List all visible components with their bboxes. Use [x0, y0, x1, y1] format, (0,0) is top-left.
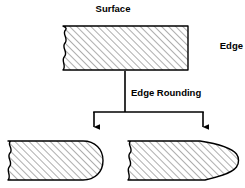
diagram-canvas: Surface Edge Edge Rounding [0, 0, 245, 188]
surface-label: Surface [96, 3, 131, 14]
edge-label: Edge [220, 40, 243, 51]
tapered-edge-block [128, 141, 239, 180]
radiused-edge-block [8, 141, 103, 180]
branching-arrow [93, 71, 204, 127]
tapered-edge-block-outline [128, 141, 239, 180]
edge-rounding-diagram: Surface Edge Edge Rounding [0, 0, 245, 188]
radiused-edge-block-outline [8, 141, 103, 180]
edge-rounding-label: Edge Rounding [131, 87, 201, 98]
square-edge-block [63, 26, 188, 70]
square-edge-block-outline [63, 26, 188, 70]
